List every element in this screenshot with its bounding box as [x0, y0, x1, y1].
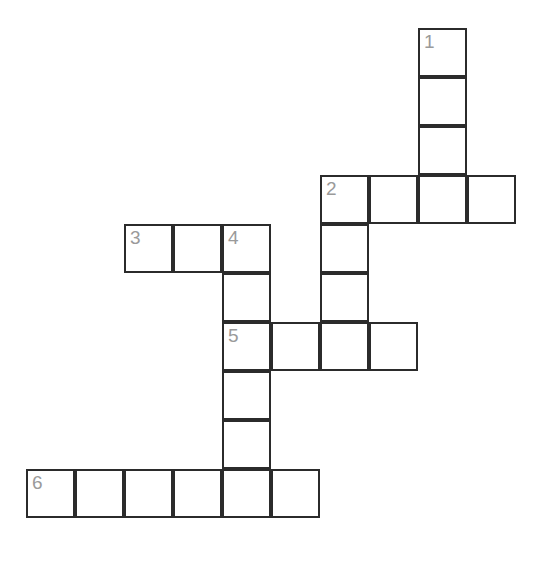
crossword-cell[interactable] [222, 371, 271, 420]
cell-number-4: 4 [228, 227, 239, 249]
crossword-cell[interactable] [320, 273, 369, 322]
crossword-grid: 123456 [0, 0, 542, 562]
crossword-cell[interactable] [467, 175, 516, 224]
crossword-cell[interactable] [369, 175, 418, 224]
crossword-cell[interactable] [75, 469, 124, 518]
cell-number-6: 6 [32, 472, 43, 494]
crossword-cell[interactable] [418, 77, 467, 126]
crossword-cell[interactable]: 5 [222, 322, 271, 371]
crossword-cell[interactable] [418, 126, 467, 175]
crossword-cell[interactable] [320, 322, 369, 371]
crossword-cell[interactable] [173, 224, 222, 273]
cell-number-5: 5 [228, 325, 239, 347]
cell-number-3: 3 [130, 227, 141, 249]
crossword-cell[interactable] [271, 322, 320, 371]
crossword-cell[interactable] [320, 224, 369, 273]
crossword-cell[interactable]: 2 [320, 175, 369, 224]
crossword-cell[interactable] [124, 469, 173, 518]
crossword-cell[interactable]: 6 [26, 469, 75, 518]
cell-number-2: 2 [326, 178, 337, 200]
crossword-cell[interactable] [222, 469, 271, 518]
crossword-cell[interactable] [418, 175, 467, 224]
crossword-cell[interactable]: 3 [124, 224, 173, 273]
crossword-cell[interactable] [222, 273, 271, 322]
crossword-cell[interactable] [369, 322, 418, 371]
crossword-cell[interactable] [271, 469, 320, 518]
crossword-cell[interactable] [222, 420, 271, 469]
crossword-cell[interactable]: 1 [418, 28, 467, 77]
crossword-cell[interactable]: 4 [222, 224, 271, 273]
cell-number-1: 1 [424, 31, 435, 53]
crossword-cell[interactable] [173, 469, 222, 518]
